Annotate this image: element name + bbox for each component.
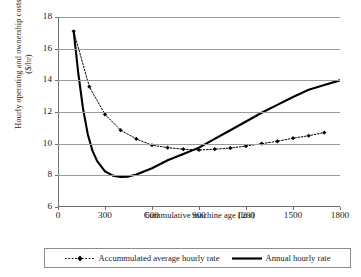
data-point-marker [322, 130, 326, 134]
y-axis-title: Hourly operating and ownership costs ($/… [14, 0, 46, 164]
data-point-marker [291, 136, 295, 140]
legend-entry-accummulated-average-hourly-rate: Accummulated average hourly rate [65, 254, 220, 263]
dotted-diamond-key-icon [65, 254, 95, 263]
y-tick-mark [55, 80, 58, 81]
data-point-marker [87, 85, 91, 89]
series-accummulated-markers [72, 29, 327, 152]
gridline [58, 17, 340, 18]
y-axis-title-line2: ($/hr) [24, 0, 34, 164]
y-tick-label: 14 [43, 76, 52, 85]
legend-entry-annual-hourly-rate: Annual hourly rate [232, 254, 331, 263]
y-axis-title-line1: Hourly operating and ownership costs [14, 0, 24, 164]
solid-line-key-icon [232, 254, 262, 263]
chart-figure: Hourly operating and ownership costs ($/… [0, 0, 361, 277]
y-tick-label: 8 [47, 171, 52, 180]
y-tick-label: 18 [43, 12, 52, 21]
data-point-marker [307, 134, 311, 138]
data-point-marker [72, 29, 76, 33]
data-point-marker [134, 137, 138, 141]
series-annual-hourly-rate [74, 31, 340, 177]
gridline [58, 144, 340, 145]
data-point-marker [181, 147, 185, 151]
gridline [58, 175, 340, 176]
y-tick-mark [55, 144, 58, 145]
x-axis-title: Cummulative machine age (hrs) [58, 210, 340, 220]
data-point-marker [166, 146, 170, 150]
y-tick-label: 12 [43, 107, 52, 116]
legend-label: Annual hourly rate [266, 254, 331, 263]
legend-label: Accummulated average hourly rate [99, 254, 220, 263]
gridline [58, 49, 340, 50]
data-point-marker [213, 147, 217, 151]
y-tick-mark [55, 112, 58, 113]
y-tick-label: 10 [43, 139, 52, 148]
y-tick-mark [55, 17, 58, 18]
data-point-marker [228, 146, 232, 150]
y-tick-label: 16 [43, 44, 52, 53]
y-tick-mark [55, 49, 58, 50]
gridline [58, 80, 340, 81]
y-tick-label: 6 [47, 202, 52, 211]
y-tick-mark [55, 175, 58, 176]
gridline [58, 112, 340, 113]
chart-legend: Accummulated average hourly rate Annual … [44, 248, 351, 268]
plot-area: 681012141618 0300600900120015001800 [58, 17, 340, 207]
